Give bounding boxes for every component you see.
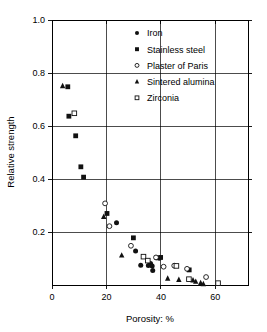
data-point [146, 258, 151, 263]
data-point [150, 263, 155, 268]
data-point [176, 277, 181, 282]
data-point [138, 263, 143, 268]
data-point [81, 175, 86, 180]
data-point [73, 133, 78, 138]
data-point [133, 249, 138, 254]
legend-marker-stainless-steel [135, 47, 139, 51]
y-axis-tick-label: 0.8 [32, 68, 45, 78]
legend-label-stainless-steel: Stainless steel [147, 45, 205, 55]
series-sintered-alumina [60, 83, 206, 286]
legend-marker-iron [135, 31, 139, 35]
x-axis-tick-label: 20 [101, 292, 111, 302]
axis-tick-labels-group: 0.20.40.60.81.00204060 [32, 15, 220, 302]
data-point [66, 114, 71, 119]
y-axis-tick-label: 0.2 [32, 227, 45, 237]
legend-label-sintered-alumina: Sintered alumina [147, 77, 215, 87]
series-stainless-steel [65, 84, 191, 272]
legend-label-plaster-of-paris: Plaster of Paris [147, 61, 209, 71]
data-point [165, 275, 170, 280]
data-point [105, 211, 110, 216]
data-point [158, 255, 163, 260]
data-point [107, 224, 112, 229]
data-point [154, 255, 159, 260]
data-point [185, 266, 190, 271]
legend-marker-zirconia [135, 96, 139, 100]
data-point [204, 275, 209, 280]
data-points-group [60, 83, 220, 286]
y-axis-tick-label: 0.6 [32, 121, 45, 131]
data-point [72, 111, 77, 116]
legend-marker-sintered-alumina [135, 79, 139, 83]
legend-marker-plaster-of-paris [135, 63, 139, 67]
legend-group: IronStainless steelPlaster of ParisSinte… [135, 28, 215, 103]
data-point [131, 235, 136, 240]
x-axis-tick-label: 60 [210, 292, 220, 302]
y-axis-tick-label: 0.4 [32, 174, 45, 184]
series-plaster-of-paris [103, 201, 209, 279]
data-point [129, 243, 134, 248]
x-axis-title: Porosity: % [126, 313, 175, 324]
legend-label-zirconia: Zirconia [147, 93, 179, 103]
data-point [114, 220, 119, 225]
data-point [187, 277, 192, 282]
data-point [119, 252, 124, 257]
scatter-chart-figure: 0.20.40.60.81.00204060 IronStainless ste… [0, 0, 267, 332]
data-point [150, 268, 155, 273]
x-axis-tick-label: 0 [49, 292, 54, 302]
data-point [65, 84, 70, 89]
data-point [174, 264, 179, 269]
chart-canvas: 0.20.40.60.81.00204060 IronStainless ste… [0, 0, 267, 332]
data-point [161, 264, 166, 269]
series-iron [114, 220, 162, 273]
data-point [60, 83, 65, 88]
data-point [103, 201, 108, 206]
y-axis-tick-label: 1.0 [32, 15, 45, 25]
legend-label-iron: Iron [147, 28, 163, 38]
data-point [216, 281, 221, 286]
series-zirconia [72, 111, 220, 285]
data-point [78, 164, 83, 169]
y-axis-title: Relative strength [5, 116, 16, 187]
x-axis-tick-label: 40 [156, 292, 166, 302]
